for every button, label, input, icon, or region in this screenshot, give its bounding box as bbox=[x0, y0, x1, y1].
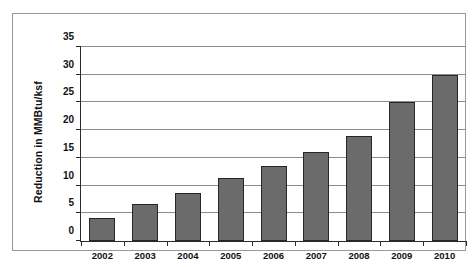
bar bbox=[89, 218, 115, 241]
y-tick-label: 20 bbox=[63, 114, 74, 125]
y-tick-label: 15 bbox=[63, 141, 74, 152]
x-tick-mark bbox=[423, 241, 424, 246]
y-tick-mark bbox=[76, 46, 81, 47]
y-tick-label: 0 bbox=[68, 225, 74, 236]
y-tick-label: 30 bbox=[63, 58, 74, 69]
y-tick-mark bbox=[76, 212, 81, 213]
chart-frame: Reduction in MMBtu/ksf 05101520253035 20… bbox=[12, 13, 466, 251]
x-tick-label: 2006 bbox=[263, 250, 284, 261]
bar bbox=[432, 75, 458, 241]
y-axis-title: Reduction in MMBtu/ksf bbox=[31, 42, 45, 242]
bar bbox=[132, 204, 158, 241]
x-tick-label: 2007 bbox=[306, 250, 327, 261]
bar bbox=[389, 102, 415, 241]
bar bbox=[303, 152, 329, 241]
x-tick-mark bbox=[252, 241, 253, 246]
y-tick-mark bbox=[76, 101, 81, 102]
x-tick-mark bbox=[167, 241, 168, 246]
x-tick-label: 2008 bbox=[348, 250, 369, 261]
x-tick-label: 2002 bbox=[92, 250, 113, 261]
y-tick-mark bbox=[76, 74, 81, 75]
bar bbox=[175, 193, 201, 241]
bar bbox=[346, 136, 372, 241]
plot-area: 05101520253035 2002200320042005200620072… bbox=[80, 47, 466, 242]
x-tick-label: 2003 bbox=[135, 250, 156, 261]
y-tick-mark bbox=[76, 129, 81, 130]
y-tick-label: 10 bbox=[63, 169, 74, 180]
x-tick-label: 2010 bbox=[434, 250, 455, 261]
x-tick-label: 2005 bbox=[220, 250, 241, 261]
x-tick-mark bbox=[124, 241, 125, 246]
gridline bbox=[81, 74, 466, 75]
y-tick-label: 35 bbox=[63, 31, 74, 42]
y-tick-mark bbox=[76, 185, 81, 186]
bar bbox=[218, 178, 244, 241]
x-tick-mark bbox=[209, 241, 210, 246]
x-tick-mark bbox=[81, 241, 82, 246]
y-tick-mark bbox=[76, 157, 81, 158]
y-tick-label: 5 bbox=[68, 197, 74, 208]
x-tick-mark bbox=[466, 241, 467, 246]
x-tick-mark bbox=[338, 241, 339, 246]
x-tick-label: 2009 bbox=[391, 250, 412, 261]
x-tick-mark bbox=[380, 241, 381, 246]
bar bbox=[261, 166, 287, 241]
x-tick-mark bbox=[295, 241, 296, 246]
x-tick-label: 2004 bbox=[177, 250, 198, 261]
gridline bbox=[81, 46, 466, 47]
y-tick-label: 25 bbox=[63, 86, 74, 97]
